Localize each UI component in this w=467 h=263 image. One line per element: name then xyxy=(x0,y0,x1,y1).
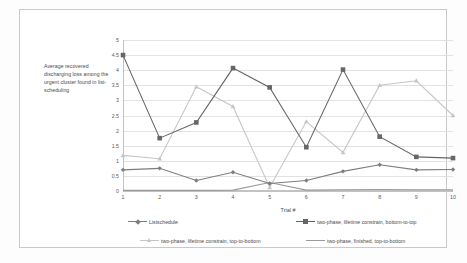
y-tick-label: 4 xyxy=(97,67,119,73)
chart-frame: Average recovered discharging loss among… xyxy=(19,9,447,248)
series-line xyxy=(123,165,453,184)
x-tick-label: 3 xyxy=(184,194,208,200)
data-point xyxy=(121,168,125,172)
data-point xyxy=(414,155,419,160)
chart-page: Average recovered discharging loss among… xyxy=(0,0,467,263)
y-tick-label: 1.5 xyxy=(97,143,119,149)
data-point xyxy=(194,178,198,182)
data-point xyxy=(341,169,345,173)
data-point xyxy=(341,67,346,72)
legend-label: two-phase, lifetime constrain, bottom-to… xyxy=(317,219,416,225)
series-line xyxy=(123,183,453,191)
plot-area xyxy=(123,40,453,191)
data-point xyxy=(121,53,126,58)
x-axis-ticks: 12345678910 xyxy=(123,194,453,204)
legend-swatch-icon xyxy=(128,218,147,225)
data-point xyxy=(414,168,418,172)
x-tick-label: 10 xyxy=(441,194,465,200)
series-line xyxy=(123,55,453,158)
series-line xyxy=(123,81,453,188)
data-point xyxy=(194,120,199,125)
data-point xyxy=(157,166,161,170)
y-tick-label: 4.5 xyxy=(97,52,119,58)
series-canvas xyxy=(123,40,453,191)
data-point xyxy=(267,85,272,90)
y-tick-label: 1 xyxy=(97,158,119,164)
legend-item[interactable]: Listschedule xyxy=(128,218,178,225)
y-tick-label: 2 xyxy=(97,128,119,134)
legend-swatch-icon xyxy=(296,218,315,225)
data-point xyxy=(231,66,236,71)
x-tick-label: 4 xyxy=(221,194,245,200)
x-tick-label: 1 xyxy=(111,194,135,200)
legend-item[interactable]: two-phase, lifetime constrain, top-to-bo… xyxy=(140,237,260,244)
chart-legend: Listscheduletwo-phase, lifetime constrai… xyxy=(44,218,462,254)
y-tick-label: 3.5 xyxy=(97,82,119,88)
y-tick-label: 3 xyxy=(97,97,119,103)
data-point xyxy=(231,170,235,174)
legend-swatch-icon xyxy=(306,237,325,244)
legend-item[interactable]: two-phase, finished, top-to-bottom xyxy=(306,237,405,244)
x-tick-label: 9 xyxy=(404,194,428,200)
data-point xyxy=(451,156,456,161)
x-tick-label: 8 xyxy=(368,194,392,200)
legend-label: two-phase, finished, top-to-bottom xyxy=(327,238,405,244)
data-point xyxy=(157,136,162,141)
y-tick-label: 0.5 xyxy=(97,173,119,179)
data-point xyxy=(451,167,455,171)
data-point xyxy=(304,145,309,150)
legend-swatch-icon xyxy=(140,237,159,244)
data-point xyxy=(377,163,381,167)
y-tick-label: 2.5 xyxy=(97,113,119,119)
data-point xyxy=(377,134,382,139)
data-point xyxy=(304,178,308,182)
legend-item[interactable]: two-phase, lifetime constrain, bottom-to… xyxy=(296,218,416,225)
gridline xyxy=(123,191,453,192)
data-point xyxy=(304,119,309,123)
y-tick-label: 5 xyxy=(97,37,119,43)
x-tick-label: 5 xyxy=(258,194,282,200)
data-point xyxy=(194,84,199,88)
legend-label: Listschedule xyxy=(149,219,178,225)
legend-label: two-phase, lifetime constrain, top-to-bo… xyxy=(161,238,260,244)
x-tick-label: 7 xyxy=(331,194,355,200)
x-axis-title: Trial # xyxy=(123,207,453,213)
x-tick-label: 2 xyxy=(148,194,172,200)
x-tick-label: 6 xyxy=(294,194,318,200)
y-axis-ticks: 00.511.522.533.544.55 xyxy=(97,40,119,191)
